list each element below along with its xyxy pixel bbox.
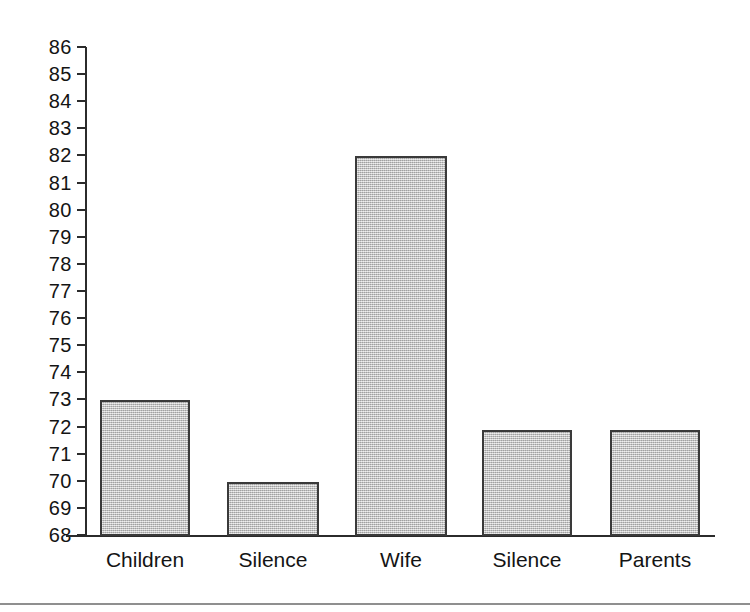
- y-axis-tick-label: 85: [0, 64, 72, 84]
- y-axis-tick-label: 80: [0, 200, 72, 220]
- y-axis-tick-label: 68: [0, 525, 72, 545]
- y-axis-tick-label: 86: [0, 37, 72, 57]
- y-axis-tick-label: 77: [0, 281, 72, 301]
- x-axis-category-label: Parents: [570, 548, 740, 572]
- y-axis-tick-label: 75: [0, 335, 72, 355]
- y-axis-tick-label-text: 71: [28, 444, 72, 464]
- y-axis-tick-label: 73: [0, 389, 72, 409]
- y-axis-tick-label-text: 78: [28, 254, 72, 274]
- y-axis-tick-label: 72: [0, 417, 72, 437]
- bar: [100, 400, 190, 536]
- y-axis-tick-label: 83: [0, 118, 72, 138]
- y-axis-tick-label: 79: [0, 227, 72, 247]
- y-axis-tick-label: 82: [0, 145, 72, 165]
- y-axis-tick-label-text: 79: [28, 227, 72, 247]
- y-axis-tick-label-text: 81: [28, 173, 72, 193]
- y-axis-tick-label-text: 75: [28, 335, 72, 355]
- y-axis-tick-label-text: 73: [28, 389, 72, 409]
- y-axis-tick-label-text: 86: [28, 37, 72, 57]
- y-axis-tick-label-text: 76: [28, 308, 72, 328]
- y-axis-tick-label: 71: [0, 444, 72, 464]
- y-axis-tick-label-text: 82: [28, 145, 72, 165]
- bar: [610, 430, 700, 536]
- bar: [227, 482, 319, 536]
- y-axis-tick-label-text: 80: [28, 200, 72, 220]
- y-axis-tick-label: 74: [0, 362, 72, 382]
- y-axis-tick-label-text: 70: [28, 471, 72, 491]
- bar: [482, 430, 572, 536]
- plot-area: [86, 47, 715, 536]
- bar-chart-figure: 68697071727374757677787980818283848586 C…: [0, 0, 750, 612]
- bar: [355, 156, 447, 536]
- y-axis-tick-label: 76: [0, 308, 72, 328]
- y-axis-tick-label-text: 72: [28, 417, 72, 437]
- y-axis-tick-label-text: 85: [28, 64, 72, 84]
- y-axis-tick-label: 78: [0, 254, 72, 274]
- y-axis-tick-label: 81: [0, 173, 72, 193]
- y-axis-tick-label-text: 83: [28, 118, 72, 138]
- y-axis-tick-label-text: 77: [28, 281, 72, 301]
- y-axis-tick-label-text: 74: [28, 362, 72, 382]
- y-axis-tick-label: 69: [0, 498, 72, 518]
- y-axis-tick-label: 70: [0, 471, 72, 491]
- y-axis-tick-label-text: 84: [28, 91, 72, 111]
- page-bottom-rule: [0, 603, 750, 605]
- y-axis-tick-label: 84: [0, 91, 72, 111]
- y-axis-tick-label-text: 69: [28, 498, 72, 518]
